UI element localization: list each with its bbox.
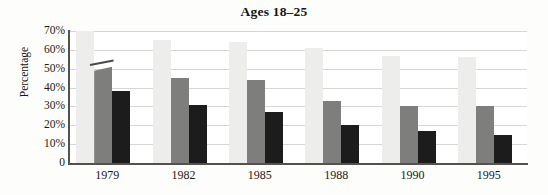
y-tick-label: 70%	[7, 25, 65, 37]
bar-1985-series-3	[265, 112, 283, 163]
x-axis-tick-labels: 197919821985198819901995	[69, 168, 527, 188]
x-tick-label: 1979	[69, 168, 145, 182]
bar-1995-series-1	[458, 57, 476, 163]
plot-clip	[69, 31, 527, 163]
y-tick-label: 20%	[7, 119, 65, 131]
bar-1979-series-3	[112, 91, 130, 163]
bar-1979-series-2	[94, 67, 112, 163]
y-tick-label: 50%	[7, 63, 65, 75]
x-tick-label: 1985	[222, 168, 298, 182]
bar-1979-series-1	[76, 31, 94, 163]
y-tick-label: 60%	[7, 44, 65, 56]
y-tick-label: 30%	[7, 100, 65, 112]
bar-1990-series-1	[382, 56, 400, 163]
y-axis-spine	[68, 30, 70, 164]
bar-1995-series-2	[476, 106, 494, 163]
bar-1988-series-3	[341, 125, 359, 163]
y-tick-label: 10%	[7, 138, 65, 150]
bar-1985-series-1	[229, 42, 247, 163]
gridline	[69, 31, 527, 32]
x-tick-label: 1988	[298, 168, 374, 182]
bar-1982-series-1	[153, 40, 171, 163]
x-axis-spine	[68, 163, 528, 165]
chart-title: Ages 18–25	[0, 4, 548, 20]
bar-chart-figure: Ages 18–25 Percentage 70%60%50%40%30%20%…	[0, 0, 548, 195]
bar-1995-series-3	[494, 135, 512, 163]
bar-1988-series-1	[305, 48, 323, 163]
bar-1985-series-2	[247, 80, 265, 163]
gridline	[69, 50, 527, 51]
bar-1982-series-2	[171, 78, 189, 163]
y-tick-label: 40%	[7, 82, 65, 94]
y-axis-tick-labels: 70%60%50%40%30%20%10%0	[3, 0, 65, 195]
bar-1988-series-2	[323, 101, 341, 163]
x-tick-label: 1990	[374, 168, 450, 182]
x-tick-label: 1982	[145, 168, 221, 182]
bar-1990-series-2	[400, 106, 418, 163]
bar-1982-series-3	[189, 105, 207, 163]
y-tick-label: 0	[7, 157, 65, 169]
bar-1990-series-3	[418, 131, 436, 163]
plot-area	[69, 31, 527, 163]
x-tick-label: 1995	[451, 168, 527, 182]
